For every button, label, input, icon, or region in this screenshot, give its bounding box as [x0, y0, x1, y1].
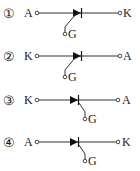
- gate-label: G: [88, 112, 97, 126]
- diode-triangle-icon: [70, 138, 78, 146]
- option-2[interactable]: ② K G A: [3, 49, 132, 84]
- right-terminal-label: A: [123, 49, 132, 63]
- option-1[interactable]: ① A G K: [3, 6, 132, 41]
- left-terminal-label: K: [24, 49, 33, 63]
- right-terminal-icon: [118, 54, 122, 58]
- option-4[interactable]: ④ A G K: [3, 135, 131, 168]
- left-terminal-label: A: [24, 135, 33, 149]
- gate-label: G: [68, 70, 77, 84]
- gate-terminal-icon: [83, 117, 87, 121]
- left-terminal-icon: [35, 98, 39, 102]
- thyristor-options-diagram: ① A G K ② K G A ③ K G A: [0, 0, 140, 171]
- option-number: ③: [3, 93, 15, 108]
- left-terminal-label: K: [24, 93, 33, 107]
- gate-label: G: [68, 27, 77, 41]
- gate-terminal-icon: [83, 159, 87, 163]
- option-3[interactable]: ③ K G A: [3, 93, 131, 126]
- gate-terminal-icon: [63, 32, 67, 36]
- gate-label: G: [88, 154, 97, 168]
- option-number: ①: [3, 6, 15, 21]
- gate-wire: [79, 103, 85, 118]
- left-terminal-icon: [35, 140, 39, 144]
- diode-triangle-icon: [70, 96, 78, 104]
- right-terminal-label: K: [122, 135, 131, 149]
- right-terminal-icon: [116, 98, 120, 102]
- right-terminal-icon: [116, 140, 120, 144]
- gate-terminal-icon: [63, 75, 67, 79]
- left-terminal-icon: [35, 11, 39, 15]
- option-number: ④: [3, 135, 15, 150]
- right-terminal-label: A: [122, 93, 131, 107]
- left-terminal-icon: [35, 54, 39, 58]
- right-terminal-icon: [118, 11, 122, 15]
- right-terminal-label: K: [123, 6, 132, 20]
- gate-wire: [79, 145, 85, 160]
- left-terminal-label: A: [24, 6, 33, 20]
- option-number: ②: [3, 49, 15, 64]
